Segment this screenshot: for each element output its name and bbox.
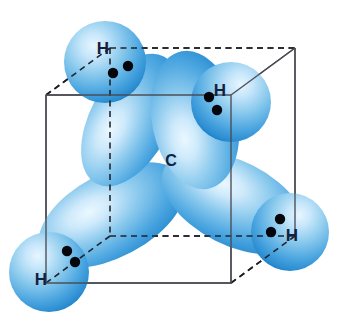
hydrogen-label-top-left: H bbox=[97, 39, 109, 58]
methane-orbital-diagram: H H H H C bbox=[0, 0, 342, 331]
electron-dot bbox=[204, 92, 214, 102]
electron-dot bbox=[266, 227, 276, 237]
diagram-canvas: H H H H C bbox=[0, 0, 342, 331]
hydrogen-sphere-top-left bbox=[64, 21, 146, 103]
hydrogen-label-top-right: H bbox=[214, 81, 226, 100]
hydrogen-label-bottom-left: H bbox=[35, 270, 47, 289]
hydrogen-sphere-bottom-left bbox=[9, 232, 89, 312]
hydrogen-label-bottom-right: H bbox=[286, 226, 298, 245]
electron-dot bbox=[108, 68, 118, 78]
electron-dot bbox=[212, 105, 222, 115]
electron-dot bbox=[123, 61, 133, 71]
carbon-label: C bbox=[165, 152, 177, 169]
electron-dot bbox=[62, 246, 72, 256]
electron-dot bbox=[275, 214, 285, 224]
electron-dot bbox=[70, 257, 80, 267]
